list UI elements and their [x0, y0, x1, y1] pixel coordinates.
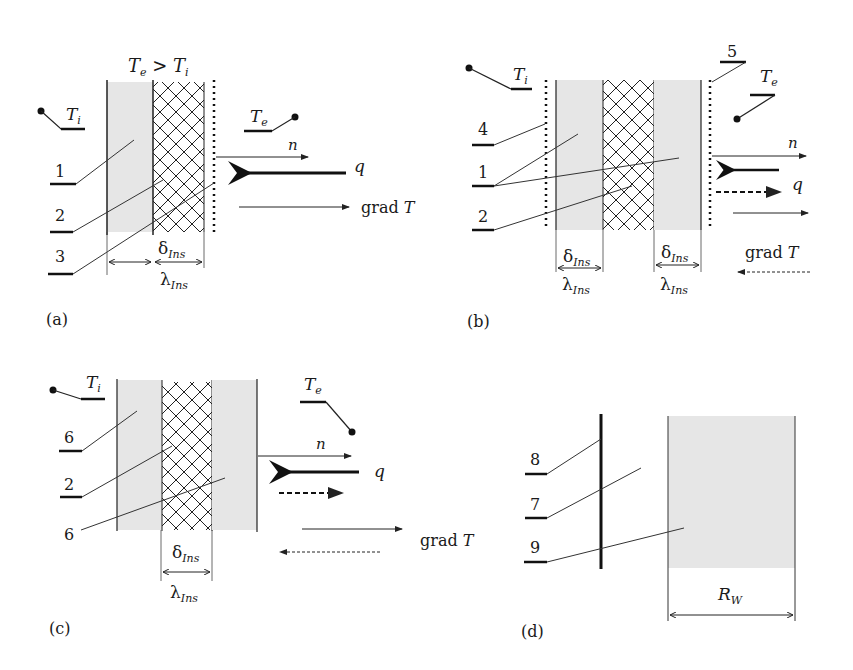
svg-text:7: 7 [530, 495, 540, 514]
svg-text:q: q [792, 174, 803, 194]
insulation-layer [153, 82, 204, 232]
svg-text:λIns: λIns [170, 582, 198, 605]
svg-text:δIns: δIns [661, 242, 689, 265]
svg-text:λIns: λIns [160, 269, 188, 292]
svg-text:3: 3 [55, 247, 65, 266]
svg-text:6: 6 [64, 428, 74, 447]
svg-text:2: 2 [478, 207, 488, 226]
svg-text:n: n [288, 136, 298, 154]
svg-text:9: 9 [530, 538, 540, 557]
svg-text:8: 8 [530, 450, 540, 469]
svg-text:Te: Te [760, 66, 778, 89]
svg-text:1: 1 [478, 163, 488, 182]
svg-text:(c): (c) [49, 619, 70, 638]
svg-text:δIns: δIns [158, 238, 186, 261]
svg-text:λIns: λIns [562, 274, 590, 297]
svg-text:RW: RW [717, 584, 744, 607]
outer-temp-label: Te [250, 106, 268, 129]
svg-text:Te: Te [304, 374, 322, 397]
wall-layer [107, 82, 153, 232]
svg-text:q: q [374, 461, 385, 481]
svg-text:(b): (b) [467, 312, 490, 331]
svg-text:6: 6 [64, 525, 74, 544]
diagram-canvas: Te > Ti Ti Te 1 2 3 δIns λIns [0, 0, 853, 670]
panel-d: 8 7 9 RW (d) [521, 414, 795, 641]
svg-text:grad T: grad T [361, 198, 416, 217]
svg-text:2: 2 [64, 475, 74, 494]
svg-text:5: 5 [727, 42, 737, 61]
svg-text:2: 2 [55, 206, 65, 225]
svg-text:q: q [354, 156, 365, 176]
panel-c: Ti Te 6 2 6 δIns λIns n q grad T (c) [49, 372, 475, 638]
svg-text:n: n [788, 134, 798, 152]
svg-text:1: 1 [55, 162, 65, 181]
svg-text:(d): (d) [521, 622, 544, 641]
condition-label: Te > Ti [128, 55, 189, 79]
svg-text:λIns: λIns [660, 274, 688, 297]
caption-a: (a) [46, 310, 68, 329]
svg-text:Ti: Ti [86, 372, 101, 395]
svg-text:grad T: grad T [420, 531, 475, 550]
svg-text:δIns: δIns [563, 246, 591, 269]
svg-text:4: 4 [478, 120, 488, 139]
inner-temp-label: Ti [66, 104, 81, 127]
svg-text:n: n [316, 435, 326, 453]
svg-text:δIns: δIns [172, 542, 200, 565]
panel-b: Ti 5 Te 4 1 2 δIns δIns λIns λIns n [466, 42, 811, 331]
svg-text:Ti: Ti [513, 64, 528, 87]
svg-text:grad T: grad T [745, 243, 800, 262]
panel-a: Te > Ti Ti Te 1 2 3 δIns λIns [38, 55, 416, 329]
